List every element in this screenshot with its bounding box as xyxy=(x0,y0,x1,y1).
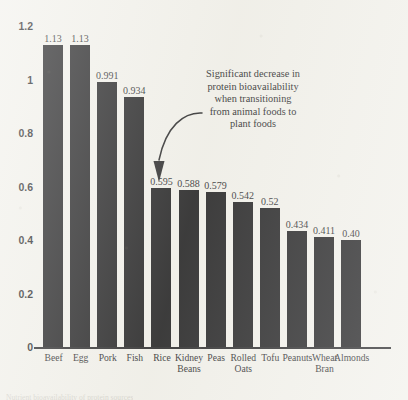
bar-value-label: 1.13 xyxy=(71,34,89,44)
bar-chart: 00.20.40.60.811.2 Significant decrease i… xyxy=(0,0,408,400)
y-axis: 00.20.40.60.811.2 xyxy=(0,0,33,400)
bar[interactable]: 0.434 xyxy=(287,231,307,347)
bar-value-label: 1.13 xyxy=(44,34,62,44)
bar-slot: 0.40 xyxy=(338,26,365,347)
bar[interactable]: 0.991 xyxy=(97,82,117,347)
bar[interactable]: 0.411 xyxy=(314,237,334,347)
bar[interactable]: 0.542 xyxy=(233,202,253,347)
bar-slot: 1.13 xyxy=(40,26,67,347)
bar-value-label: 0.411 xyxy=(313,226,335,236)
bar-value-label: 0.991 xyxy=(96,71,119,81)
bar-value-label: 0.542 xyxy=(231,191,254,201)
bar-slot: 0.434 xyxy=(284,26,311,347)
bar-slot: 0.579 xyxy=(203,26,230,347)
bar[interactable]: 1.13 xyxy=(70,45,90,347)
y-axis-tick-label: 0 xyxy=(27,342,33,353)
bar[interactable]: 0.579 xyxy=(206,192,226,347)
bar-slot: 0.934 xyxy=(121,26,148,347)
bar[interactable]: 0.40 xyxy=(341,240,361,347)
bar-slot: 0.595 xyxy=(148,26,175,347)
bar-value-label: 0.588 xyxy=(177,179,200,189)
y-axis-tick-label: 1.2 xyxy=(18,21,33,32)
x-axis-line xyxy=(34,347,391,349)
bar-slot: 1.13 xyxy=(67,26,94,347)
y-axis-tick-label: 1 xyxy=(27,74,33,85)
bar-value-label: 0.934 xyxy=(123,86,146,96)
bar[interactable]: 0.595 xyxy=(151,188,171,347)
y-axis-tick-label: 0.4 xyxy=(18,235,33,246)
bar-value-label: 0.52 xyxy=(261,197,279,207)
bottom-caption: Nutrient bioavailability of protein sour… xyxy=(6,393,133,400)
bar-value-label: 0.40 xyxy=(342,229,360,239)
bar[interactable]: 1.13 xyxy=(43,45,63,347)
bar-slot: 0.52 xyxy=(257,26,284,347)
bar-slot: 0.991 xyxy=(94,26,121,347)
x-axis-category-label: Almonds xyxy=(331,353,373,364)
bar-value-label: 0.579 xyxy=(204,181,227,191)
bar[interactable]: 0.588 xyxy=(179,190,199,347)
bar-value-label: 0.595 xyxy=(150,177,173,187)
bar-slot: 0.542 xyxy=(230,26,257,347)
bar-slot: 0.588 xyxy=(176,26,203,347)
bar[interactable]: 0.934 xyxy=(124,97,144,347)
y-axis-tick-label: 0.6 xyxy=(18,181,33,192)
bar-value-label: 0.434 xyxy=(286,220,309,230)
y-axis-tick-label: 0.2 xyxy=(18,288,33,299)
bar-slot: 0.411 xyxy=(311,26,338,347)
bar[interactable]: 0.52 xyxy=(260,208,280,347)
y-axis-tick-label: 0.8 xyxy=(18,128,33,139)
